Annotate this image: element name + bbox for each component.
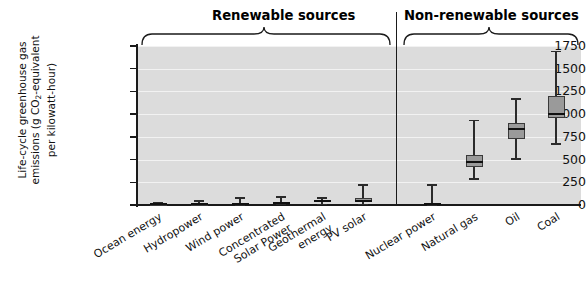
- cap-lower: [469, 178, 480, 180]
- whisker-upper: [473, 121, 475, 156]
- cap-upper: [427, 184, 438, 186]
- cap-upper: [511, 98, 522, 100]
- whisker-upper: [362, 185, 364, 197]
- median-line: [548, 113, 565, 115]
- whisker-lower: [555, 118, 557, 144]
- y-tick: [130, 136, 137, 138]
- cap-upper: [276, 196, 287, 198]
- median-line: [355, 200, 372, 202]
- cap-upper: [235, 197, 246, 199]
- cap-lower: [551, 143, 562, 145]
- cap-lower: [511, 158, 522, 160]
- group-header-non-renewable: Non-renewable sources: [404, 8, 579, 23]
- group-divider-line: [396, 12, 397, 206]
- y-tick: [130, 45, 137, 47]
- median-line: [466, 161, 483, 163]
- median-line: [273, 202, 290, 204]
- median-line: [191, 203, 208, 205]
- brace-non-renewable: [402, 26, 580, 46]
- median-line: [314, 200, 331, 202]
- median-line: [232, 203, 249, 205]
- y-tick: [130, 204, 137, 206]
- box-iqr: [508, 123, 525, 140]
- whisker-lower: [515, 139, 517, 158]
- cap-upper: [469, 120, 480, 122]
- cap-lower: [358, 204, 369, 206]
- y-axis-title: Life-cycle greenhouse gas emissions (g C…: [0, 15, 117, 205]
- y-axis-title-line2a: emissions (g CO: [29, 100, 41, 185]
- y-axis-title-line2b: -equivalent: [29, 35, 41, 94]
- brace-renewable: [140, 26, 392, 46]
- cap-upper: [194, 200, 205, 202]
- chart-figure: Life-cycle greenhouse gas emissions (g C…: [0, 0, 586, 303]
- cap-upper: [317, 197, 328, 199]
- median-line: [150, 203, 167, 205]
- cap-lower: [317, 204, 328, 206]
- whisker-upper: [431, 185, 433, 203]
- whisker-upper: [555, 52, 557, 96]
- y-tick: [130, 68, 137, 70]
- group-header-renewable: Renewable sources: [212, 8, 355, 23]
- y-tick: [130, 91, 137, 93]
- median-line: [508, 128, 525, 130]
- y-tick: [130, 182, 137, 184]
- y-axis-title-line1: Life-cycle greenhouse gas: [16, 41, 28, 178]
- cap-upper: [551, 51, 562, 53]
- y-tick: [130, 113, 137, 115]
- y-axis-title-line3: per kilowatt-hour): [45, 63, 57, 157]
- y-tick: [130, 159, 137, 161]
- y-axis-title-subscript: 2: [34, 95, 43, 100]
- cap-upper: [358, 184, 369, 186]
- whisker-upper: [515, 99, 517, 123]
- median-line: [424, 203, 441, 205]
